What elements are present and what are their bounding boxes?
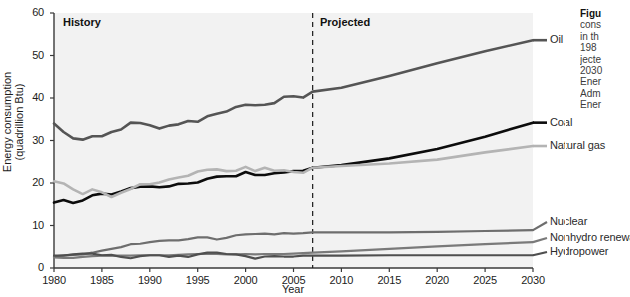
y-tick-0: 0 xyxy=(18,261,44,273)
series-group xyxy=(54,40,533,258)
y-tick-60: 60 xyxy=(18,6,44,18)
y-tick-10: 10 xyxy=(18,219,44,231)
chart-canvas xyxy=(0,0,630,297)
x-axis-title: Year xyxy=(0,283,586,295)
series-label-nonhydro-renewables: Nonhydro renewables xyxy=(550,231,630,243)
leader-line-hydropower xyxy=(533,252,547,255)
series-label-hydropower: Hydropower xyxy=(550,245,608,257)
caption-line-9: Ener xyxy=(580,99,630,110)
series-label-natural-gas: Natural gas xyxy=(550,139,605,151)
figure-root: History Projected 0102030405060 19801985… xyxy=(0,0,630,297)
series-leader-lines xyxy=(533,40,547,255)
caption-line-6: 2030 xyxy=(580,65,630,76)
series-label-coal: Coal xyxy=(550,116,572,128)
caption-line-2: cons xyxy=(580,19,630,30)
caption-line-7: Ener xyxy=(580,76,630,87)
leader-line-nuclear xyxy=(533,222,547,230)
caption-line-3: in th xyxy=(580,31,630,42)
caption-line-8: Adm xyxy=(580,88,630,99)
y-axis-title: Energy consumption (quadrillion Btu) xyxy=(1,47,25,197)
series-label-oil: Oil xyxy=(550,33,563,45)
caption-line-1: Figu xyxy=(580,8,630,19)
series-label-nuclear: Nuclear xyxy=(550,215,587,227)
figure-caption: Figuconsin th198jecte2030EnerAdmEner xyxy=(580,8,630,128)
series-line-oil xyxy=(54,40,533,139)
caption-line-5: jecte xyxy=(580,54,630,65)
leader-line-nonhydro-renewables xyxy=(533,238,547,242)
y-axis-title-line-1: Energy consumption xyxy=(1,47,13,197)
y-axis-title-line-2: (quadrillion Btu) xyxy=(13,47,25,197)
caption-gutter xyxy=(565,0,566,297)
caption-line-4: 198 xyxy=(580,42,630,53)
